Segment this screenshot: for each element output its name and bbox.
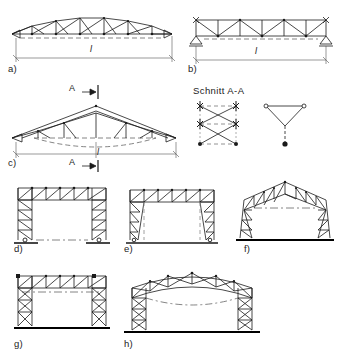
col-right-battens (238, 298, 252, 320)
col-left (130, 190, 144, 240)
section-marker-label-bottom: A (69, 157, 75, 167)
col-left-x (132, 298, 146, 330)
figure-h (124, 268, 260, 338)
section-rect (192, 100, 248, 152)
secondary-chord (22, 111, 168, 138)
col-right-x (92, 288, 106, 326)
dimension-line (13, 142, 179, 158)
figure-f (236, 178, 334, 248)
roof-tie-dashed (146, 298, 238, 305)
roof-verticals (130, 190, 214, 202)
inner-chord (12, 113, 176, 138)
tie-dashed (34, 138, 156, 147)
roof-diagonals (18, 188, 106, 200)
figure-label-f: f) (244, 243, 250, 254)
figure-a (8, 6, 180, 68)
dimension-label-c: l (97, 147, 99, 157)
figure-label-e: e) (124, 243, 133, 254)
dimension-label-b: l (255, 46, 257, 56)
cross-bracing-lower (200, 124, 236, 144)
col-right (200, 190, 214, 240)
section-title: Schnitt A-A (193, 85, 244, 96)
triangle-sides (266, 106, 304, 126)
support-right (320, 36, 332, 44)
web-diagonals (196, 20, 326, 36)
dimension-line (13, 36, 175, 62)
figure-b (186, 6, 336, 68)
col-right-x (238, 298, 252, 330)
truss-nodes (37, 105, 153, 132)
bases (126, 238, 218, 243)
figure-label-a: a) (8, 63, 17, 74)
support-left (190, 36, 202, 44)
figure-c (8, 100, 180, 162)
section-marker-label-top: A (69, 83, 75, 93)
top-chord-pitched (12, 106, 176, 138)
figure-label-h: h) (124, 338, 133, 349)
col-left-x (18, 288, 32, 326)
figure-label-c: c) (8, 157, 16, 168)
col-left (240, 200, 252, 238)
roof-verticals (132, 273, 252, 298)
dimension-label-a: l (90, 44, 92, 54)
bases (14, 238, 110, 243)
section-triangle (258, 100, 314, 152)
ref-dashed (144, 202, 200, 240)
col-right (318, 200, 330, 238)
cross-bracing-upper (200, 106, 236, 124)
figure-label-g: g) (14, 338, 23, 349)
figure-d (14, 182, 110, 248)
col-left-battens (132, 298, 146, 320)
figure-g (14, 272, 110, 334)
dimension-line (193, 46, 329, 64)
web-diagonals (12, 18, 172, 34)
figure-e (124, 182, 220, 248)
figure-label-b: b) (188, 63, 197, 74)
col-left-chords (18, 188, 32, 240)
figure-label-d: d) (14, 243, 23, 254)
web-verticals (196, 20, 326, 36)
